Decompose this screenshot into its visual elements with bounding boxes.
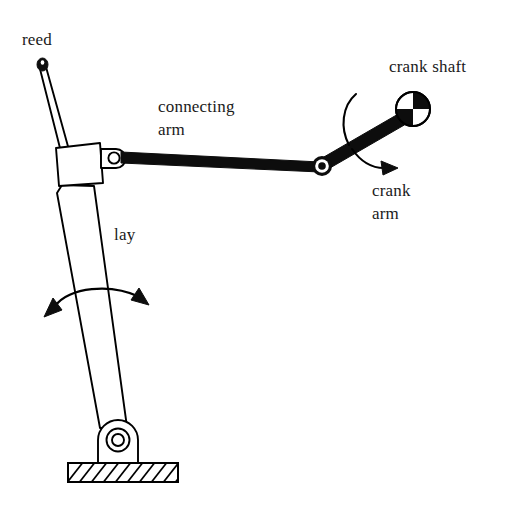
label-connecting-arm-line2: arm (158, 120, 185, 139)
loom-mechanism-diagram: reed connecting arm crank shaft crank ar… (0, 0, 510, 516)
lay-pivot-inner-ring (112, 434, 124, 446)
reed (40, 67, 69, 152)
label-lay: lay (114, 225, 136, 244)
crank-rotation-arc (344, 94, 356, 145)
lay-sword (57, 185, 127, 428)
crank-pin-joint-center (318, 162, 326, 170)
label-crank-shaft: crank shaft (389, 57, 466, 76)
label-crank-arm-line2: arm (372, 204, 399, 223)
lay-block-joint-pin (108, 152, 119, 163)
label-connecting-arm-line1: connecting (158, 97, 235, 116)
lay-block (56, 143, 103, 186)
label-reed: reed (22, 30, 52, 49)
mechanism-drawing: reed connecting arm crank shaft crank ar… (0, 0, 510, 516)
reed-tip-hole (41, 60, 45, 64)
label-crank-arm-line1: crank (372, 181, 411, 200)
lay-oscillation-arrowhead-right (131, 288, 149, 305)
connecting-arm (121, 152, 320, 172)
crank-rotation-arrowhead (381, 161, 398, 175)
